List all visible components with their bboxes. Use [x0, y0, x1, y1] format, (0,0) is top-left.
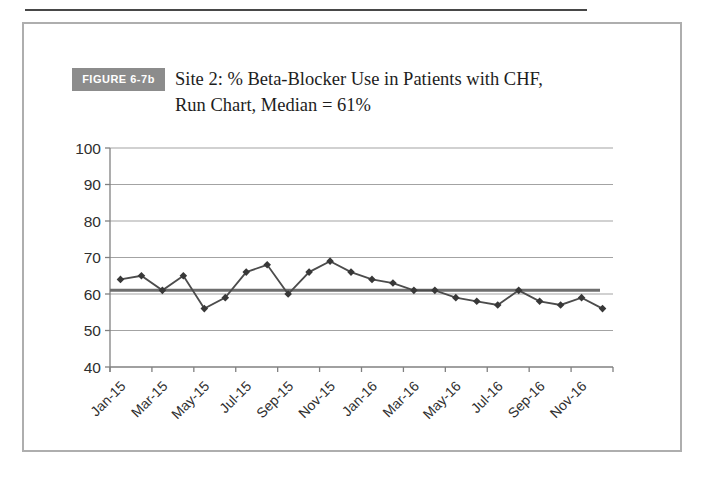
y-axis-tick-label: 90 — [84, 176, 102, 193]
y-axis-tick-label: 50 — [84, 322, 102, 339]
data-point-marker — [452, 294, 460, 302]
data-point-marker — [410, 287, 418, 295]
data-point-marker — [389, 279, 397, 287]
y-axis-tick-label: 70 — [84, 249, 102, 266]
x-axis-tick-label: Sep-16 — [505, 378, 548, 421]
y-axis-tick-label: 40 — [84, 359, 102, 376]
x-axis-tick-label: Sep-15 — [253, 378, 296, 421]
data-point-marker — [368, 276, 376, 284]
data-point-marker — [599, 305, 607, 313]
y-axis-tick-label: 100 — [75, 140, 101, 157]
x-axis-tick-label: May-16 — [420, 378, 464, 422]
page-top-rule — [25, 9, 587, 11]
x-axis-tick-label: Nov-16 — [546, 378, 589, 421]
x-axis-tick-label: May-15 — [168, 378, 212, 422]
data-point-marker — [557, 301, 565, 309]
y-axis-ticks — [105, 148, 110, 367]
y-gridlines — [110, 148, 613, 331]
x-axis-tick-label: Jan-15 — [87, 378, 129, 420]
data-point-marker — [117, 276, 125, 284]
data-point-marker — [536, 298, 544, 306]
x-axis-labels: Jan-15Mar-15May-15Jul-15Sep-15Nov-15Jan-… — [87, 378, 590, 422]
axes — [110, 148, 613, 372]
x-axis-tick-label: Mar-15 — [128, 378, 171, 421]
document-page: FIGURE 6-7b Site 2: % Beta-Blocker Use i… — [0, 0, 701, 482]
data-point-marker — [578, 294, 586, 302]
y-axis-tick-label: 80 — [84, 213, 102, 230]
x-axis-tick-label: Jul-16 — [468, 378, 506, 416]
data-point-marker — [347, 268, 355, 276]
data-point-marker — [326, 257, 334, 265]
x-axis-tick-label: Nov-15 — [295, 378, 338, 421]
x-axis-tick-label: Jul-15 — [216, 378, 254, 416]
y-axis-labels: 405060708090100 — [75, 140, 101, 376]
figure-frame: FIGURE 6-7b Site 2: % Beta-Blocker Use i… — [22, 22, 682, 452]
x-axis-tick-label: Jan-16 — [339, 378, 381, 420]
data-series-line — [120, 261, 602, 308]
data-point-marker — [473, 298, 481, 306]
y-axis-tick-label: 60 — [84, 286, 102, 303]
x-axis-tick-label: Mar-16 — [379, 378, 422, 421]
data-point-marker — [431, 287, 439, 295]
x-axis-ticks — [110, 367, 613, 372]
run-chart: 405060708090100Jan-15Mar-15May-15Jul-15S… — [24, 24, 680, 450]
